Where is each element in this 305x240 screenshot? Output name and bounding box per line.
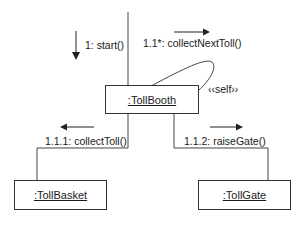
message-raise-gate: 1.1.2: raiseGate() — [184, 136, 266, 147]
object-tollgate[interactable]: :TollGate — [198, 180, 291, 210]
object-tollbooth[interactable]: :TollBooth — [105, 85, 199, 114]
self-link-label: ‹‹self›› — [208, 84, 238, 95]
object-tollbasket-label: :TollBasket — [34, 189, 87, 201]
message-collect-toll: 1.1.1: collectToll() — [45, 136, 127, 147]
message-start: 1: start() — [85, 40, 124, 51]
object-tollbasket[interactable]: :TollBasket — [14, 180, 107, 210]
object-tollbooth-label: :TollBooth — [128, 94, 176, 106]
object-tollgate-label: :TollGate — [223, 189, 266, 201]
message-collect-next-toll: 1.1*: collectNextToll() — [143, 38, 242, 49]
